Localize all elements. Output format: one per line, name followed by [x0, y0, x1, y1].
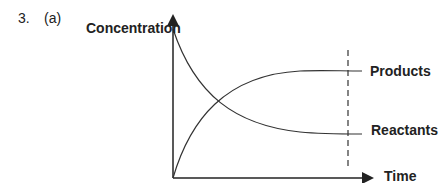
reactants-label: Reactants [371, 122, 438, 138]
concentration-time-graph [0, 0, 441, 183]
products-curve [173, 71, 362, 178]
x-axis-label: Time [384, 168, 416, 183]
y-axis-label: Concentration [86, 20, 181, 36]
products-label: Products [370, 63, 431, 79]
